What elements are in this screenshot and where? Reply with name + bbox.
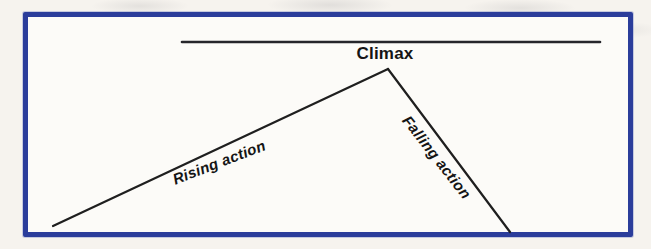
diagram-frame: [23, 12, 633, 237]
climax-label: Climax: [357, 44, 414, 64]
plot-structure-diagram: { "diagram": { "climax_label": "Climax",…: [0, 0, 651, 249]
